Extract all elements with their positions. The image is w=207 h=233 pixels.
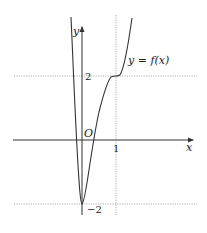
x-axis-label: x: [186, 141, 193, 154]
tick-label-yneg2: −2: [87, 204, 102, 215]
tick-label-y2: 2: [85, 71, 91, 82]
origin-label: O: [84, 127, 93, 140]
y-axis-label: y: [72, 25, 80, 38]
tick-label-x1: 1: [113, 143, 119, 154]
function-curve: [71, 17, 132, 204]
function-graph: y x O y = f(x) 1 2 −2: [0, 0, 207, 233]
graph-canvas: y x O y = f(x) 1 2 −2: [0, 0, 207, 233]
curve-label: y = f(x): [127, 54, 169, 67]
